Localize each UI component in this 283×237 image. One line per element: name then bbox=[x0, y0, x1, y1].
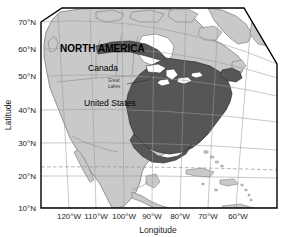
ytick-label-2: 50°N bbox=[18, 72, 36, 81]
xtick-label-0: 120°W bbox=[57, 212, 82, 221]
map-label-canada: Canada bbox=[88, 63, 118, 73]
map-label-united-states: United States bbox=[84, 98, 136, 108]
xtick-label-5: 70°W bbox=[198, 212, 218, 221]
xtick-label-6: 60°W bbox=[228, 212, 248, 221]
ytick-label-6: 10°N bbox=[18, 204, 36, 213]
latitude-axis: 70°N 60°N 50°N 40°N 30°N 20°N 10°N Latit… bbox=[3, 18, 36, 213]
map-label-great-lakes-line1: Great bbox=[108, 78, 120, 83]
ytick-label-1: 60°N bbox=[18, 45, 36, 54]
xtick-label-1: 110°W bbox=[84, 212, 108, 221]
map-label-north-america: NORTH AMERICA bbox=[60, 43, 145, 54]
ytick-label-4: 30°N bbox=[18, 139, 36, 148]
y-axis-title: Latitude bbox=[3, 100, 13, 131]
map-label-great-lakes-line2: Lakes bbox=[108, 84, 121, 89]
north-america-distribution-map: NORTH AMERICA Canada Great Lakes United … bbox=[0, 0, 283, 237]
map-figure: NORTH AMERICA Canada Great Lakes United … bbox=[0, 0, 283, 237]
x-axis-title: Longitude bbox=[139, 225, 177, 235]
longitude-axis: 120°W 110°W 100°W 90°W 80°W 70°W 60°W Lo… bbox=[57, 212, 248, 235]
xtick-label-4: 80°W bbox=[170, 212, 190, 221]
xtick-label-3: 90°W bbox=[142, 212, 162, 221]
ytick-label-0: 70°N bbox=[18, 18, 36, 27]
ytick-label-3: 40°N bbox=[18, 106, 36, 115]
ytick-label-5: 20°N bbox=[18, 172, 36, 181]
xtick-label-2: 100°W bbox=[112, 212, 137, 221]
